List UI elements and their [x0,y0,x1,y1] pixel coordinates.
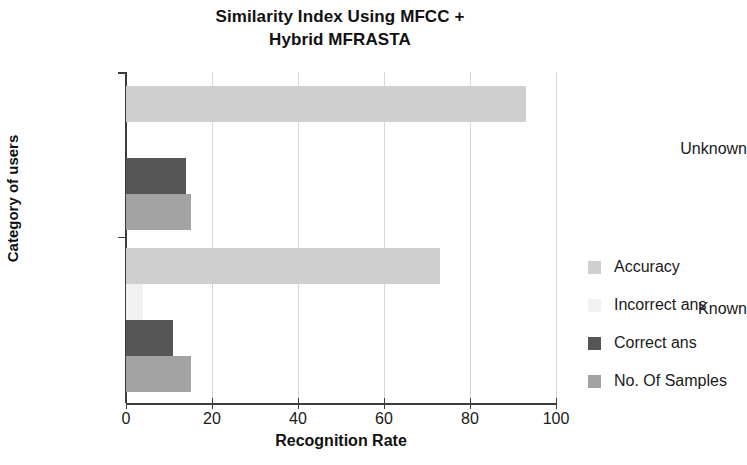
legend-swatch-no-of-samples [588,375,601,388]
chart-figure: Similarity Index Using MFCC + Hybrid MFR… [0,0,747,465]
x-axis-tick-label-40: 40 [268,410,328,428]
bar-correct-ans-unknown [126,158,186,194]
x-axis-tick-80 [470,398,471,409]
bar-accuracy-unknown [126,86,526,122]
chart-title-line-1: Similarity Index Using MFCC + [120,6,560,29]
x-axis-tick-40 [298,398,299,409]
x-axis-tick-0 [126,398,127,409]
legend: Accuracy Incorrect ans Correct ans No. O… [588,248,727,400]
x-axis-line [126,403,557,405]
gridline-x-100 [556,72,557,403]
legend-label-correct-ans: Correct ans [614,334,697,352]
bar-no-of-samples-unknown [126,194,191,230]
x-axis-tick-100 [556,398,557,409]
legend-item-correct-ans[interactable]: Correct ans [588,324,727,362]
legend-swatch-correct-ans [588,337,601,350]
legend-swatch-accuracy [588,261,601,274]
legend-item-accuracy[interactable]: Accuracy [588,248,727,286]
legend-swatch-incorrect-ans [588,299,601,312]
bar-accuracy-known [126,248,440,284]
legend-label-no-of-samples: No. Of Samples [614,372,727,390]
legend-label-accuracy: Accuracy [614,258,680,276]
chart-title: Similarity Index Using MFCC + Hybrid MFR… [120,6,560,52]
bar-no-of-samples-known [126,356,191,392]
x-axis-tick-label-100: 100 [526,410,586,428]
x-axis-tick-20 [212,398,213,409]
y-axis-category-label-unknown: Unknown [637,140,747,158]
x-axis-title: Recognition Rate [126,432,556,450]
legend-item-incorrect-ans[interactable]: Incorrect ans [588,286,727,324]
x-axis-tick-60 [384,398,385,409]
x-axis-tick-label-0: 0 [96,410,156,428]
x-axis-tick-label-60: 60 [354,410,414,428]
legend-label-incorrect-ans: Incorrect ans [614,296,706,314]
chart-title-line-2: Hybrid MFRASTA [120,29,560,52]
legend-item-no-of-samples[interactable]: No. Of Samples [588,362,727,400]
y-axis-title: Category of users [4,99,21,299]
bar-correct-ans-known [126,320,173,356]
plot-area [126,72,556,403]
bar-incorrect-ans-known [126,284,143,320]
x-axis-tick-label-20: 20 [182,410,242,428]
x-axis-tick-label-80: 80 [440,410,500,428]
